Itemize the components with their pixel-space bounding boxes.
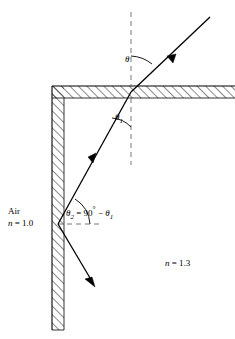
label-n-air: n = 1.0 [8,218,33,228]
arrow-incident-icon [167,54,176,63]
label-n-air-equals: = [15,218,20,228]
left-wall-band [52,86,64,330]
equation-theta1-subscript: 1 [110,213,114,221]
diagram-canvas [0,0,235,339]
top-surface-band [52,86,235,98]
label-theta: θ [125,54,129,64]
angle-arc-theta-icon [131,56,152,64]
label-theta-symbol: θ [125,54,129,64]
left-wall-hatch-fill [52,86,64,330]
label-theta2-subscript: 2 [70,213,74,221]
incident-ray [131,17,210,92]
top-surface-hatch-fill [52,86,235,98]
label-n-glass-equals: = [172,258,177,268]
label-theta1: θ1 [115,112,123,125]
label-n-glass-symbol: n [165,258,170,268]
arrow-exit-icon [85,277,95,287]
label-n-glass: n = 1.3 [165,258,190,268]
optics-refraction-diagram: θ θ1 θ2 = 90° − θ1 Air n = 1.0 n = 1.3 [0,0,235,339]
label-n-air-symbol: n [8,218,13,228]
label-air: Air [8,206,20,216]
label-n-air-value: 1.0 [22,218,33,228]
label-n-glass-value: 1.3 [179,258,190,268]
equation-ninety: 90 [84,208,93,218]
label-theta2-equation: θ2 = 90° − θ1 [66,205,113,221]
equation-minus: − [98,208,103,218]
equation-equals: = [76,208,81,218]
label-theta1-subscript: 1 [119,117,123,125]
equation-degree-sign: ° [93,205,96,214]
